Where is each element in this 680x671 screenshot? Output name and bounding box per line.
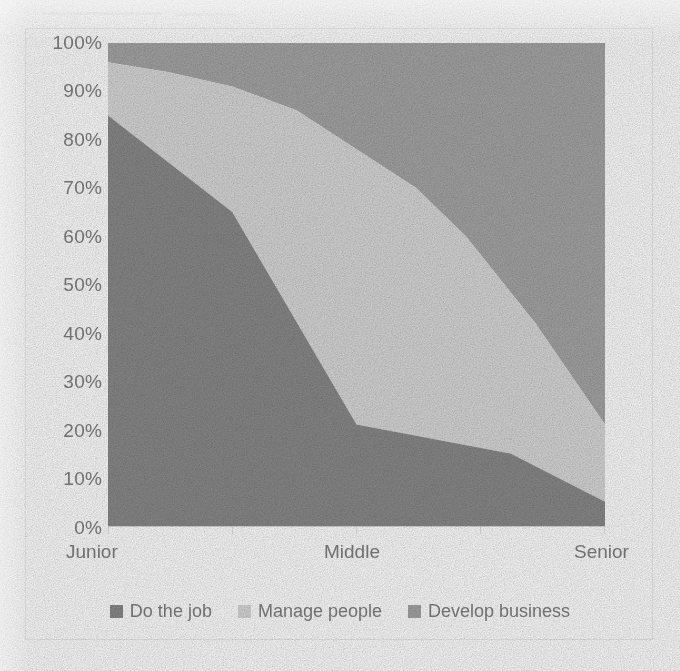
- legend-item-manage-people[interactable]: Manage people: [238, 601, 382, 621]
- legend-label: Manage people: [258, 601, 382, 621]
- legend-swatch-icon: [238, 605, 251, 618]
- scan-smudge: [42, 12, 162, 15]
- y-tick-label: 20%: [28, 421, 102, 440]
- legend-item-do-the-job[interactable]: Do the job: [110, 601, 212, 621]
- y-tick-label: 30%: [28, 372, 102, 391]
- scan-smudge: [176, 13, 234, 16]
- x-tick-label-middle: Middle: [324, 541, 380, 563]
- legend-label: Develop business: [428, 601, 570, 621]
- y-tick-label: 10%: [28, 469, 102, 488]
- legend-swatch-icon: [110, 605, 123, 618]
- x-axis: Junior Middle Senior: [50, 541, 650, 569]
- y-tick-label: 40%: [28, 324, 102, 343]
- legend-label: Do the job: [130, 601, 212, 621]
- x-tick-mark: [356, 527, 357, 534]
- y-tick-label: 60%: [28, 227, 102, 246]
- y-axis: 100% 90% 80% 70% 60% 50% 40% 30% 20% 10%…: [28, 32, 102, 536]
- x-tick-mark: [604, 527, 605, 534]
- x-tick-label-junior: Junior: [66, 541, 118, 563]
- y-tick-label: 70%: [28, 178, 102, 197]
- legend-swatch-icon: [408, 605, 421, 618]
- y-tick-label: 0%: [28, 518, 102, 537]
- chart-legend: Do the job Manage people Develop busines…: [0, 601, 680, 621]
- x-tick-mark: [232, 527, 233, 534]
- x-tick-mark: [108, 527, 109, 534]
- stacked-area-chart: 100% 90% 80% 70% 60% 50% 40% 30% 20% 10%…: [0, 0, 680, 671]
- legend-item-develop-business[interactable]: Develop business: [408, 601, 570, 621]
- y-tick-label: 80%: [28, 130, 102, 149]
- plot-area: [108, 43, 605, 526]
- y-tick-label: 100%: [28, 33, 102, 52]
- area-series-svg: [108, 43, 605, 526]
- y-tick-label: 50%: [28, 275, 102, 294]
- x-tick-label-senior: Senior: [574, 541, 629, 563]
- y-tick-label: 90%: [28, 81, 102, 100]
- x-tick-mark: [480, 527, 481, 534]
